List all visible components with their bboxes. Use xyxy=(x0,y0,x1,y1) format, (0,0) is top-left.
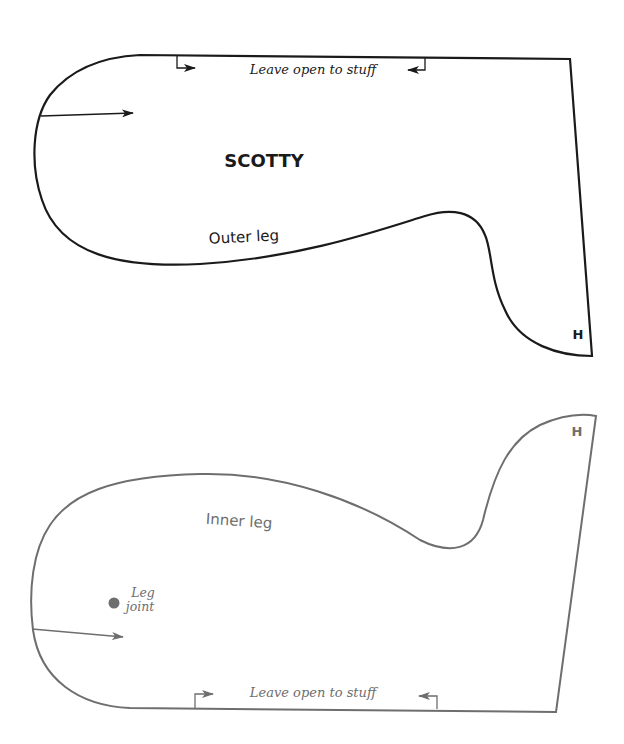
opening-bracket-right-icon xyxy=(419,696,437,709)
opening-bracket-right-icon xyxy=(408,57,425,70)
pattern-drawing: Leave open to stuff SCOTTY Outer leg H L… xyxy=(0,0,624,744)
inner-match-mark: H xyxy=(572,424,583,439)
opening-bracket-left-icon xyxy=(195,694,213,708)
inner-leg-label: Inner leg xyxy=(205,510,273,533)
outer-opening-note: Leave open to stuff xyxy=(249,62,379,77)
outer-leg-label: Outer leg xyxy=(208,226,279,248)
outer-match-mark: H xyxy=(573,327,584,342)
outer-leg-piece: Leave open to stuff SCOTTY Outer leg H xyxy=(34,55,592,356)
grainline-arrow-icon xyxy=(32,629,123,637)
pattern-sheet: Leave open to stuff SCOTTY Outer leg H L… xyxy=(0,0,624,744)
opening-bracket-left-icon xyxy=(177,56,195,68)
grainline-arrow-icon xyxy=(41,113,133,116)
leg-joint-dot-icon xyxy=(109,598,120,609)
outer-leg-outline xyxy=(34,55,592,356)
inner-leg-piece: Leg joint Inner leg H Leave open to stuf… xyxy=(31,415,596,712)
pattern-title: SCOTTY xyxy=(224,150,304,171)
inner-opening-note: Leave open to stuff xyxy=(249,685,379,700)
inner-leg-outline xyxy=(31,415,596,712)
leg-joint-label-line2: joint xyxy=(123,599,155,614)
leg-joint-label-line1: Leg xyxy=(130,585,155,600)
